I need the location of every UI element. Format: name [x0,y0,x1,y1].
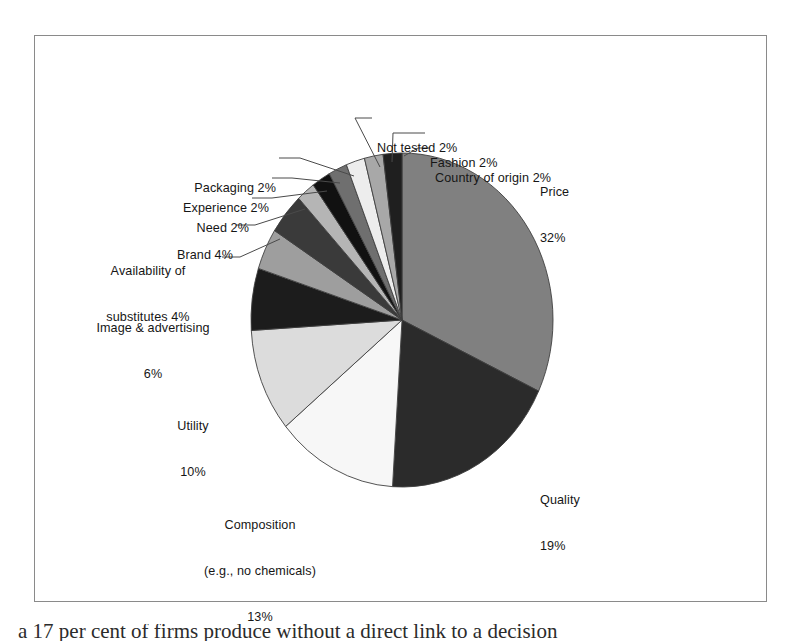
slice-label-country-of-origin-text: Country of origin 2% [435,171,551,186]
slice-label-utility-name: Utility [138,419,248,434]
slice-label-quality-name: Quality [540,493,580,508]
slice-label-country-of-origin: Country of origin 2% [435,140,551,217]
figure-root: Price 32% Quality 19% Composition (e.g.,… [0,0,801,641]
slice-label-quality: Quality 19% [540,462,580,585]
slice-label-quality-percent: 19% [540,539,580,554]
page-caption-text: a 17 per cent of firms produce without a… [18,624,557,641]
slice-label-price-percent: 32% [540,231,569,246]
slice-label-packaging: Packaging 2% [126,150,276,227]
slice-label-availability-percent: substitutes 4% [76,310,220,325]
page-caption-strip: a 17 per cent of firms produce without a… [0,624,801,641]
slice-label-composition-detail: (e.g., no chemicals) [130,564,390,579]
slice-label-composition-name: Composition [130,518,390,533]
slice-label-image-advertising-percent: 6% [78,367,228,382]
slice-label-packaging-text: Packaging 2% [126,181,276,196]
slice-label-utility-percent: 10% [138,465,248,480]
